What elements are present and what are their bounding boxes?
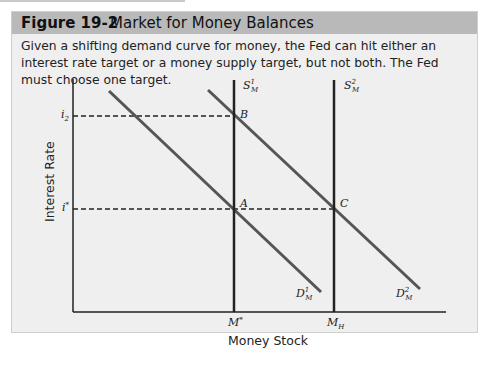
i2-tick: i2 (61, 108, 70, 123)
point-c-label: C (340, 197, 349, 210)
point-b-label: B (239, 108, 248, 121)
x-axis-label: Money Stock (228, 333, 309, 348)
mstar-tick: M* (227, 316, 243, 329)
d2-label: D2M (395, 286, 413, 302)
d1-label: D1M (295, 286, 313, 302)
s2-label: S2M (344, 78, 360, 94)
point-a-label: A (239, 197, 248, 210)
istar-tick: i* (62, 201, 70, 214)
mh-tick: MH (326, 316, 345, 331)
y-axis-label: Interest Rate (42, 141, 57, 222)
demand-curve-1 (109, 91, 321, 292)
chart: S1M S2M D1M D2M B A C i2 i* M* MH Money … (0, 0, 487, 368)
s1-label: S1M (243, 78, 259, 94)
